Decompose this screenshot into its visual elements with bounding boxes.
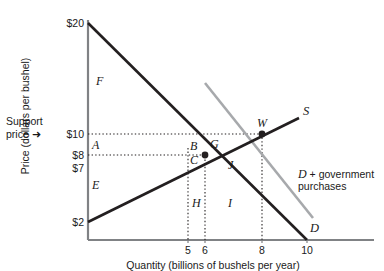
- support-price-line1: Support: [6, 115, 43, 127]
- region-label-J: J: [228, 158, 233, 173]
- region-label-H: H: [192, 196, 201, 211]
- point-label-W: W: [257, 116, 267, 131]
- quantity-tick-6: 6: [195, 244, 215, 256]
- price-tick-10: $10: [44, 128, 84, 140]
- quantity-tick-10: 10: [297, 244, 317, 256]
- price-tick-2: $2: [44, 216, 84, 228]
- support-price-line2: price: [6, 128, 29, 140]
- x-axis-label: Quantity (billions of bushels per year): [88, 259, 338, 271]
- region-label-I: I: [228, 196, 232, 211]
- region-label-C: C: [190, 153, 198, 168]
- support-price-arrow-icon: ➜: [32, 128, 41, 141]
- supply-curve-label: S: [303, 104, 309, 119]
- price-tick-20: $20: [44, 17, 84, 29]
- demand-curve-label: D: [310, 221, 319, 236]
- gov-label-demand-symbol: D: [298, 167, 307, 181]
- region-label-F: F: [96, 74, 103, 89]
- gov-label-line2: purchases: [298, 180, 346, 192]
- demand-plus-government-curve: [205, 83, 313, 218]
- support-price-callout: Support price ➜: [6, 115, 43, 140]
- point-G: [202, 152, 209, 159]
- demand-plus-government-label: D + government purchases: [298, 168, 374, 192]
- region-label-E: E: [92, 178, 99, 193]
- gov-label-rest: + government: [307, 168, 374, 180]
- price-tick-7: $7: [44, 162, 84, 174]
- region-label-B: B: [190, 139, 197, 154]
- region-label-G: G: [210, 137, 219, 152]
- price-tick-8: $8: [44, 149, 84, 161]
- region-label-A: A: [92, 138, 99, 153]
- point-W: [259, 131, 266, 138]
- quantity-tick-8: 8: [252, 244, 272, 256]
